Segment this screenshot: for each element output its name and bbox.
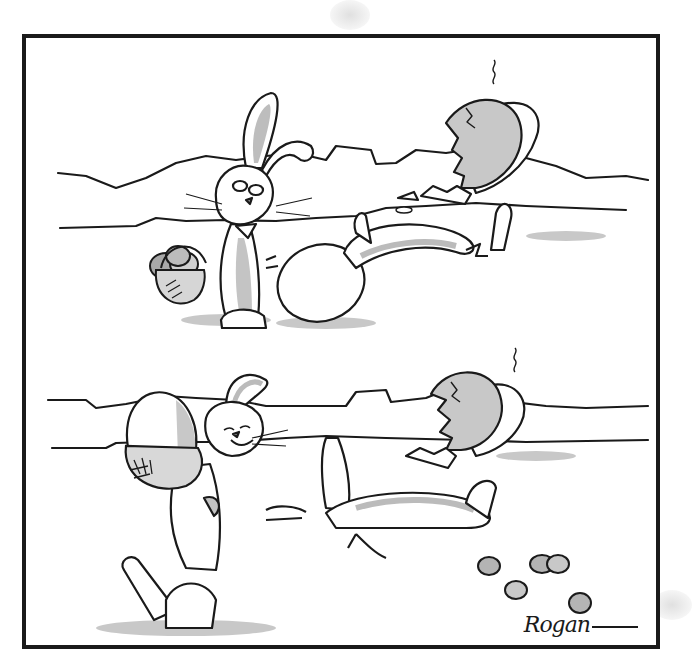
small-eggs xyxy=(478,555,591,613)
smell-wiggle xyxy=(514,348,516,372)
artist-signature: Rogan xyxy=(524,612,638,637)
scene-bottom-drawing xyxy=(26,338,656,645)
egg-basket xyxy=(150,246,206,303)
small-egg xyxy=(547,555,569,573)
eggshell-hat xyxy=(396,60,539,213)
scene-bottom xyxy=(26,338,656,645)
eggshell-hat xyxy=(406,348,524,468)
hill-line-front xyxy=(60,203,626,228)
comic-panel-frame: Rogan xyxy=(22,34,660,649)
paper-smudge xyxy=(330,0,370,30)
shell-shadow xyxy=(496,451,576,461)
shell-shadow xyxy=(526,231,606,241)
small-egg xyxy=(478,557,500,575)
signature-underline xyxy=(592,626,638,628)
scene-top xyxy=(26,38,656,338)
signature-text: Rogan xyxy=(524,612,590,637)
scene-top-drawing xyxy=(26,38,656,338)
small-egg xyxy=(505,581,527,599)
large-egg-in-basket xyxy=(126,392,202,489)
small-egg xyxy=(569,593,591,613)
smell-wiggle xyxy=(493,60,495,84)
hill-line-back xyxy=(58,146,648,188)
chick-figure xyxy=(266,438,496,558)
